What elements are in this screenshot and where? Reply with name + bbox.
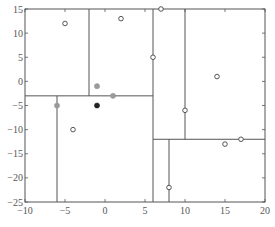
data-point-open	[223, 142, 228, 147]
data-point-open	[119, 16, 124, 21]
x-tick-label: 5	[143, 205, 148, 216]
data-point-gray	[94, 84, 99, 89]
y-tick-label: −10	[7, 124, 23, 135]
data-point-open	[239, 137, 244, 142]
x-tick-label: 10	[180, 205, 190, 216]
data-point-open	[71, 127, 76, 132]
y-tick-label: −25	[7, 197, 23, 208]
x-tick-label: 15	[220, 205, 230, 216]
x-tick-label: 20	[260, 205, 270, 216]
x-tick-label: 0	[103, 205, 108, 216]
data-point-black	[94, 103, 99, 108]
y-tick-label: −20	[7, 172, 23, 183]
data-point-gray	[54, 103, 59, 108]
y-tick-label: 5	[18, 52, 23, 63]
y-tick-label: −5	[12, 100, 23, 111]
plot-frame	[25, 9, 265, 202]
data-point-open	[63, 21, 68, 26]
y-tick-label: 10	[13, 28, 23, 39]
x-tick-label: −5	[60, 205, 71, 216]
data-point-open	[167, 185, 172, 190]
data-point-open	[183, 108, 188, 113]
y-tick-label: −15	[7, 148, 23, 159]
data-point-open	[151, 55, 156, 60]
data-point-open	[159, 7, 164, 12]
kd-tree-partition-chart: −10−505101520151050−5−10−15−20−25	[0, 0, 275, 227]
data-point-gray	[110, 93, 115, 98]
data-point-open	[215, 74, 220, 79]
y-tick-label: 0	[18, 76, 23, 87]
y-tick-label: 15	[13, 4, 23, 15]
